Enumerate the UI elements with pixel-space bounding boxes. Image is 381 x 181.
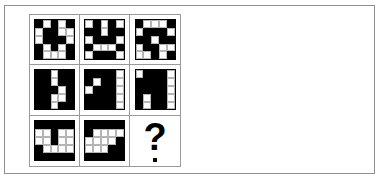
- pattern-square-r3c2: [43, 86, 51, 94]
- pattern-square-r4c4: [108, 44, 116, 52]
- pattern-square-r2c2: [43, 28, 51, 36]
- pattern-tile: [84, 120, 125, 161]
- cell-r3c3[interactable]: ?: [130, 116, 180, 166]
- pattern-square-r5c2: [43, 102, 51, 110]
- pattern-square-r5c5: [167, 102, 175, 110]
- pattern-square-r5c3: [101, 102, 109, 110]
- pattern-square-r3c4: [58, 36, 66, 44]
- pattern-square-r2c4: [58, 129, 66, 137]
- pattern-square-r1c1: [35, 20, 43, 28]
- pattern-square-r1c3: [101, 20, 109, 28]
- pattern-square-r3c1: [85, 86, 93, 94]
- pattern-square-r3c1: [136, 86, 144, 94]
- pattern-square-r3c2: [43, 137, 51, 145]
- pattern-square-r5c3: [151, 51, 159, 59]
- cell-r1c3[interactable]: [130, 15, 180, 65]
- pattern-square-r1c4: [58, 70, 66, 78]
- pattern-square-r5c2: [43, 51, 51, 59]
- pattern-tile: [34, 69, 75, 110]
- pattern-square-r5c5: [167, 51, 175, 59]
- pattern-square-r5c3: [101, 153, 109, 161]
- pattern-square-r2c4: [108, 28, 116, 36]
- pattern-square-r5c5: [66, 51, 74, 59]
- pattern-square-r2c2: [143, 28, 151, 36]
- pattern-square-r1c5: [66, 20, 74, 28]
- pattern-square-r3c4: [159, 36, 167, 44]
- pattern-square-r2c1: [136, 78, 144, 86]
- pattern-square-r4c2: [143, 94, 151, 102]
- pattern-square-r1c5: [167, 20, 175, 28]
- pattern-square-r3c1: [85, 36, 93, 44]
- pattern-square-r1c2: [143, 20, 151, 28]
- pattern-square-r3c4: [108, 137, 116, 145]
- pattern-square-r2c3: [51, 129, 59, 137]
- pattern-square-r3c4: [58, 137, 66, 145]
- pattern-square-r4c3: [51, 94, 59, 102]
- pattern-square-r2c4: [58, 28, 66, 36]
- pattern-square-r3c5: [167, 36, 175, 44]
- pattern-tile: [34, 19, 75, 60]
- pattern-square-r1c2: [43, 20, 51, 28]
- pattern-square-r5c5: [66, 102, 74, 110]
- pattern-square-r5c3: [51, 51, 59, 59]
- pattern-square-r4c2: [93, 145, 101, 153]
- pattern-square-r2c2: [143, 78, 151, 86]
- pattern-square-r4c4: [58, 94, 66, 102]
- pattern-square-r3c1: [85, 137, 93, 145]
- pattern-square-r3c5: [167, 86, 175, 94]
- cell-r2c1[interactable]: [30, 65, 80, 115]
- pattern-square-r2c4: [108, 129, 116, 137]
- pattern-square-r2c1: [35, 78, 43, 86]
- cell-r1c2[interactable]: [80, 15, 130, 65]
- pattern-square-r2c5: [116, 129, 124, 137]
- pattern-square-r2c2: [93, 78, 101, 86]
- pattern-square-r1c2: [143, 70, 151, 78]
- pattern-square-r4c1: [35, 44, 43, 52]
- cell-r2c2[interactable]: [80, 65, 130, 115]
- pattern-square-r3c5: [116, 36, 124, 44]
- pattern-square-r3c3: [151, 36, 159, 44]
- pattern-square-r1c4: [108, 70, 116, 78]
- pattern-square-r3c2: [93, 36, 101, 44]
- pattern-square-r5c1: [136, 102, 144, 110]
- pattern-square-r1c5: [66, 121, 74, 129]
- pattern-square-r4c3: [51, 145, 59, 153]
- pattern-square-r1c1: [85, 121, 93, 129]
- pattern-square-r4c2: [43, 44, 51, 52]
- pattern-square-r2c3: [51, 28, 59, 36]
- pattern-square-r1c2: [93, 70, 101, 78]
- pattern-square-r4c5: [116, 44, 124, 52]
- pattern-square-r2c3: [151, 28, 159, 36]
- pattern-square-r1c3: [101, 121, 109, 129]
- pattern-square-r4c5: [116, 94, 124, 102]
- pattern-square-r5c2: [143, 51, 151, 59]
- puzzle-panel: ?: [4, 5, 375, 174]
- missing-answer-placeholder: ?: [143, 119, 166, 162]
- pattern-square-r5c3: [101, 51, 109, 59]
- pattern-square-r4c4: [159, 94, 167, 102]
- cell-r2c3[interactable]: [130, 65, 180, 115]
- pattern-square-r2c1: [35, 28, 43, 36]
- pattern-tile: [84, 19, 125, 60]
- pattern-square-r5c3: [51, 102, 59, 110]
- cell-r3c1[interactable]: [30, 116, 80, 166]
- cell-r1c1[interactable]: [30, 15, 80, 65]
- pattern-square-r4c3: [101, 44, 109, 52]
- pattern-square-r3c2: [143, 36, 151, 44]
- pattern-square-r1c2: [43, 121, 51, 129]
- pattern-square-r3c5: [66, 86, 74, 94]
- pattern-square-r2c5: [167, 78, 175, 86]
- pattern-square-r2c5: [66, 78, 74, 86]
- pattern-square-r4c3: [151, 44, 159, 52]
- pattern-square-r1c4: [108, 121, 116, 129]
- pattern-square-r4c4: [108, 94, 116, 102]
- pattern-square-r2c4: [159, 78, 167, 86]
- pattern-square-r5c5: [116, 102, 124, 110]
- pattern-square-r3c3: [151, 86, 159, 94]
- pattern-square-r3c3: [101, 86, 109, 94]
- pattern-square-r2c5: [116, 78, 124, 86]
- pattern-square-r1c5: [116, 20, 124, 28]
- pattern-square-r1c2: [93, 20, 101, 28]
- pattern-square-r4c1: [85, 44, 93, 52]
- cell-r3c2[interactable]: [80, 116, 130, 166]
